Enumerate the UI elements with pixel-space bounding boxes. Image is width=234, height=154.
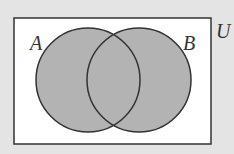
set-b-label: B: [183, 32, 195, 54]
venn-diagram: A B U: [0, 0, 234, 154]
set-a-label: A: [28, 32, 43, 54]
universe-label: U: [216, 20, 232, 42]
